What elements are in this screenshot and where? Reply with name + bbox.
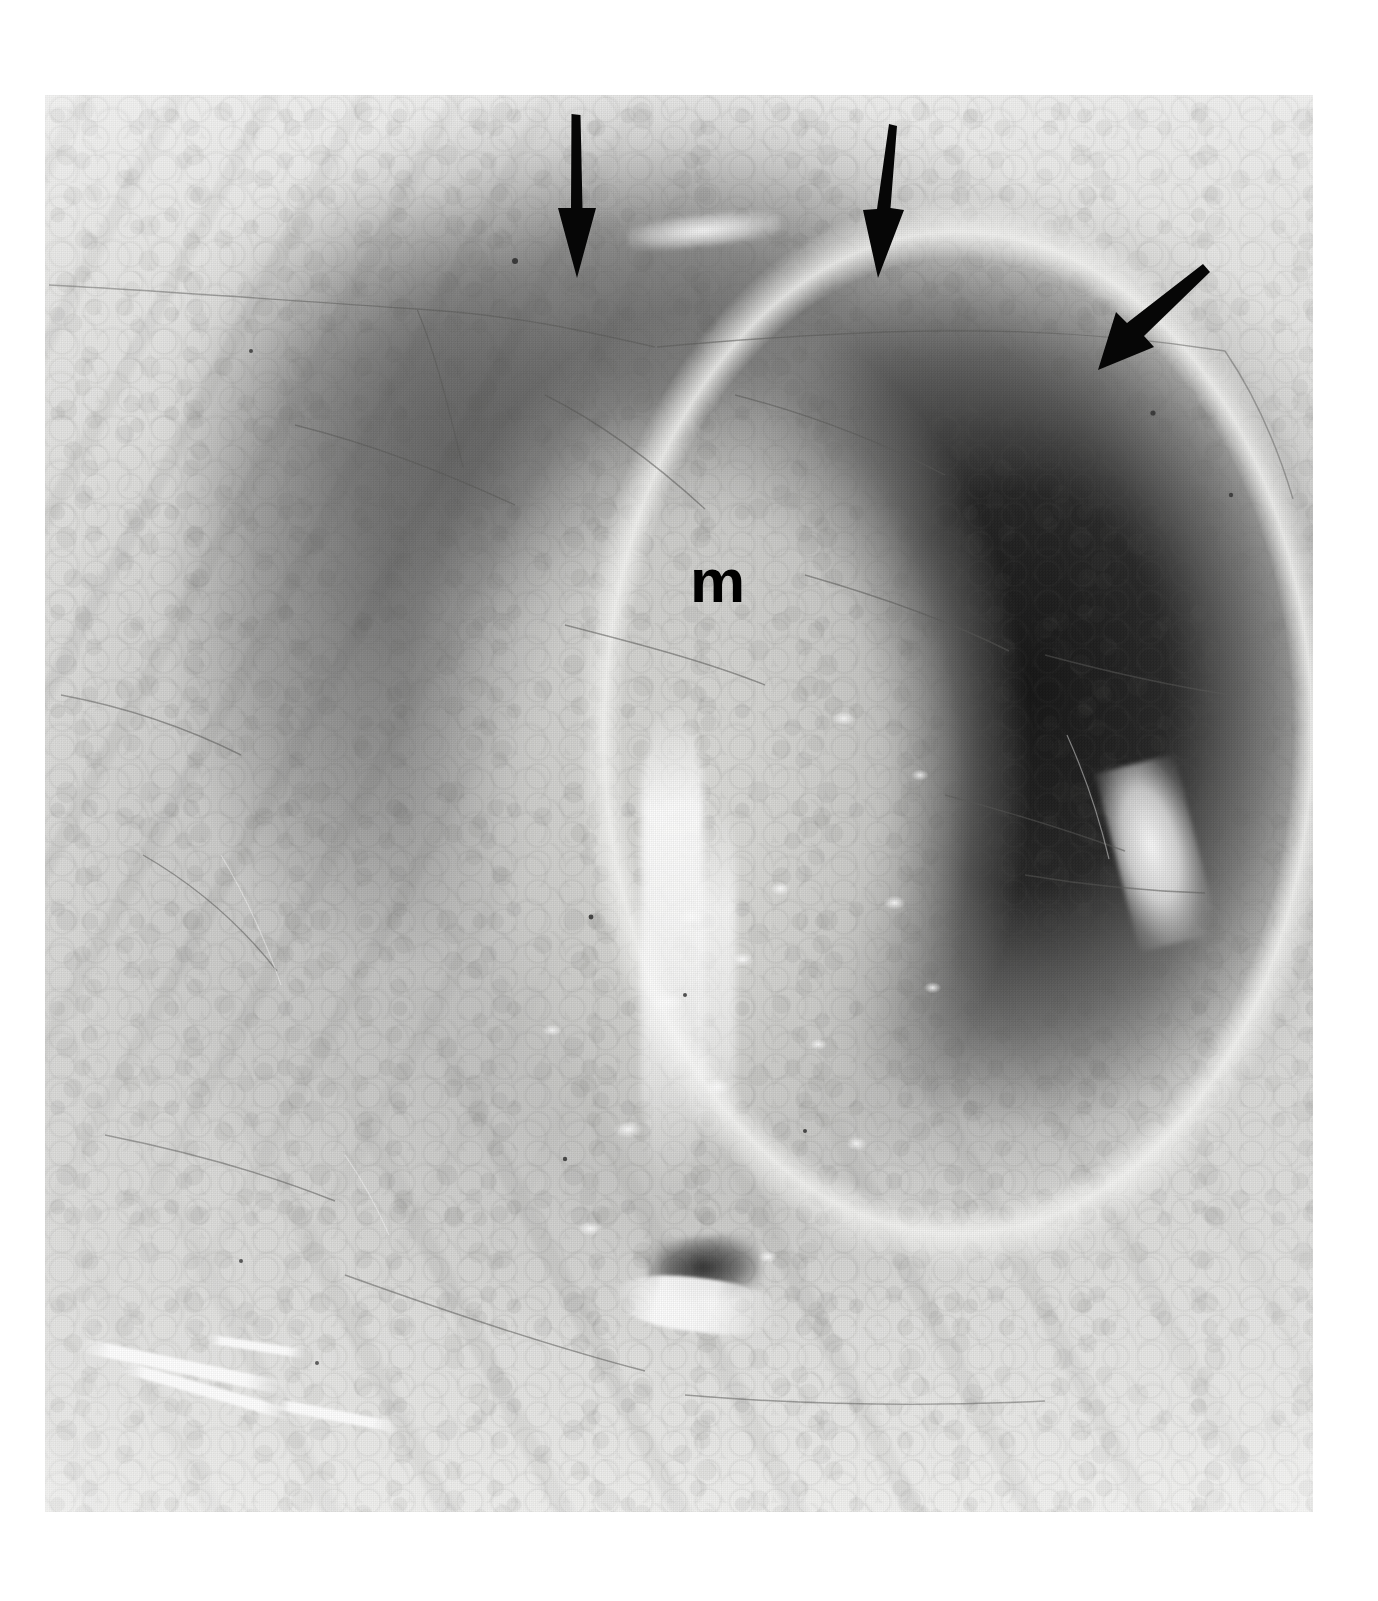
figure-page: m — [0, 0, 1378, 1601]
specular-streak-primary — [641, 704, 704, 1186]
annotation-arrow-middle — [856, 122, 912, 280]
right-flank-highlight — [1095, 754, 1220, 953]
annotation-arrow-left — [552, 112, 606, 280]
mass-label: m — [690, 550, 744, 612]
arch-crest-highlight — [627, 208, 782, 255]
basal-tubular-highlights — [70, 1314, 526, 1470]
specular-streak-secondary — [698, 804, 736, 1158]
annotation-arrow-right — [1096, 262, 1214, 392]
